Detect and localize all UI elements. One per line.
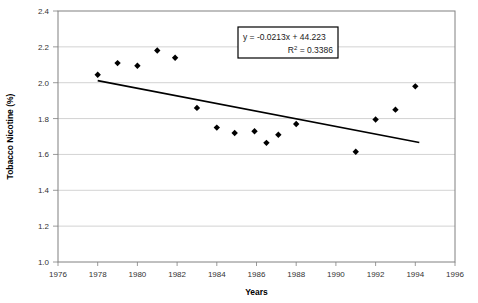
x-tick-label: 1996 <box>446 270 464 279</box>
x-tick-label: 1990 <box>327 270 345 279</box>
y-tick-label: 2.4 <box>38 7 50 16</box>
x-tick-label: 1982 <box>168 270 186 279</box>
x-axis-title: Years <box>245 287 268 297</box>
y-tick-label: 1.8 <box>38 115 50 124</box>
chart-container: 2.4 2.2 2.0 1.8 1.6 1.4 1.2 1.0 1976 <box>0 0 478 303</box>
y-axis-ticks <box>53 11 58 262</box>
y-tick-label: 1.2 <box>38 222 50 231</box>
y-tick-label: 2.0 <box>38 79 50 88</box>
y-axis-tick-labels: 2.4 2.2 2.0 1.8 1.6 1.4 1.2 1.0 <box>38 7 50 267</box>
x-tick-label: 1988 <box>287 270 305 279</box>
equation-line: y = -0.0213x + 44.223 <box>243 32 326 42</box>
r-squared-value: = 0.3386 <box>297 45 333 55</box>
y-tick-label: 1.6 <box>38 150 50 159</box>
x-tick-label: 1994 <box>406 270 424 279</box>
x-tick-label: 1976 <box>49 270 67 279</box>
x-axis-tick-labels: 1976 1978 1980 1982 1984 1986 1988 1990 … <box>49 270 464 279</box>
x-tick-label: 1980 <box>129 270 147 279</box>
x-tick-label: 1992 <box>367 270 385 279</box>
x-axis-ticks <box>58 262 455 266</box>
nicotine-scatter-chart: 2.4 2.2 2.0 1.8 1.6 1.4 1.2 1.0 1976 <box>0 0 478 303</box>
y-axis-title: Tobacco Nicotine (%) <box>5 93 15 179</box>
trendline-equation-box: y = -0.0213x + 44.223 R2 = 0.3386 <box>238 27 338 58</box>
x-tick-label: 1984 <box>208 270 226 279</box>
x-tick-label: 1978 <box>89 270 107 279</box>
x-tick-label: 1986 <box>248 270 266 279</box>
y-tick-label: 1.0 <box>38 258 50 267</box>
y-tick-label: 2.2 <box>38 43 50 52</box>
y-tick-label: 1.4 <box>38 186 50 195</box>
